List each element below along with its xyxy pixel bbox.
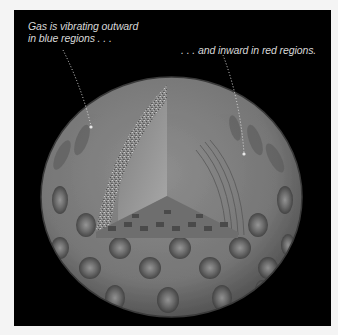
annotation-outward-line1: Gas is vibrating outward <box>28 20 138 32</box>
annotation-inward: . . . and inward in red regions. <box>181 44 316 56</box>
annotation-outward-line2: in blue regions . . . <box>28 32 138 44</box>
annotation-inward-line1: . . . and inward in red regions. <box>181 44 316 56</box>
star-sphere <box>41 77 302 317</box>
annotation-outward: Gas is vibrating outward in blue regions… <box>28 20 138 44</box>
